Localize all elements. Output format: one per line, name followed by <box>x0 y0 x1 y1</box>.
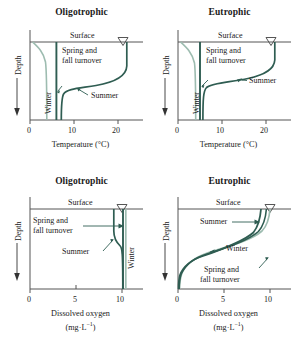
x-tick-label-0: 0 <box>175 126 179 136</box>
depth-axis-label: Depth <box>14 55 24 75</box>
curve-label-summer: Summer <box>249 76 276 86</box>
x-tick-label-20: 20 <box>260 126 268 136</box>
curve-label-winter: Winter <box>226 244 248 254</box>
curve-label-spring-fall-line2: fall turnover <box>62 56 102 66</box>
x-tick-label-10: 10 <box>116 295 124 305</box>
panel-oligotrophic-temperature: Oligotrophic <box>0 0 147 168</box>
x-tick-label-10: 10 <box>264 295 272 305</box>
x-tick-label-0: 0 <box>27 295 31 305</box>
x-tick-label-0: 0 <box>175 295 179 305</box>
curve-label-winter: Winter <box>44 92 54 114</box>
x-axis-title-line1: Dissolved oxygen <box>162 309 295 319</box>
x-tick-label-5: 5 <box>73 295 77 305</box>
x-axis-title-line2: (mg·L−1) <box>14 319 147 333</box>
curve-label-winter: Winter <box>127 247 137 269</box>
surface-label: Surface <box>218 31 242 41</box>
panel-oligotrophic-oxygen: Oligotrophic Surface Depth <box>0 169 147 337</box>
x-tick-label-20: 20 <box>112 126 120 136</box>
curve-label-spring-fall-line1: Spring and <box>204 265 239 275</box>
x-axis-title: Temperature (°C) <box>14 140 147 150</box>
x-tick-label-10: 10 <box>216 126 224 136</box>
leader-line-summer <box>242 80 247 81</box>
depth-arrow-head <box>14 273 20 281</box>
curve-label-spring-fall-line2: fall turnover <box>200 275 240 285</box>
curve-summer <box>114 209 123 289</box>
panel-eutrophic-temperature: Eutrophic Surface Depth Winter S <box>148 0 295 168</box>
depth-arrow-head <box>162 108 168 116</box>
leader-line-spring-fall <box>202 80 208 86</box>
surface-label: Surface <box>70 31 94 41</box>
depth-axis-label: Depth <box>162 221 172 241</box>
x-axis-title-line2: (mg·L−1) <box>162 319 295 333</box>
curve-label-spring-fall-line2: fall turnover <box>33 226 73 236</box>
x-axis-title-line1: Dissolved oxygen <box>14 309 147 319</box>
x-tick-label-5: 5 <box>221 295 225 305</box>
surface-label: Surface <box>216 198 240 208</box>
curve-label-summer: Summer <box>91 91 118 101</box>
curve-label-winter: Winter <box>192 92 202 114</box>
curve-label-spring-fall-line1: Spring and <box>33 216 68 226</box>
depth-axis-label: Depth <box>14 221 24 241</box>
curve-label-spring-fall-line1: Spring and <box>206 46 241 56</box>
curve-label-spring-fall-line2: fall turnover <box>206 56 246 66</box>
curve-label-spring-fall-line1: Spring and <box>62 46 97 56</box>
x-tick-label-10: 10 <box>68 126 76 136</box>
depth-axis-label: Depth <box>162 55 172 75</box>
panel-eutrophic-oxygen: Eutrophic <box>148 169 295 337</box>
depth-arrow-head <box>14 108 20 116</box>
lake-profiles-figure: Oligotrophic <box>0 0 295 337</box>
x-axis-unit-prefix: (mg·L <box>65 323 86 332</box>
surface-label: Surface <box>68 198 92 208</box>
x-axis-unit-close: ) <box>93 323 96 332</box>
x-axis-title: Temperature (°C) <box>162 140 295 150</box>
x-tick-label-0: 0 <box>27 126 31 136</box>
curve-label-summer: Summer <box>200 217 227 227</box>
curve-label-summer: Summer <box>62 247 89 257</box>
x-axis-unit-close: ) <box>241 323 244 332</box>
depth-arrow-head <box>162 273 168 281</box>
x-axis-unit-prefix: (mg·L <box>213 323 234 332</box>
